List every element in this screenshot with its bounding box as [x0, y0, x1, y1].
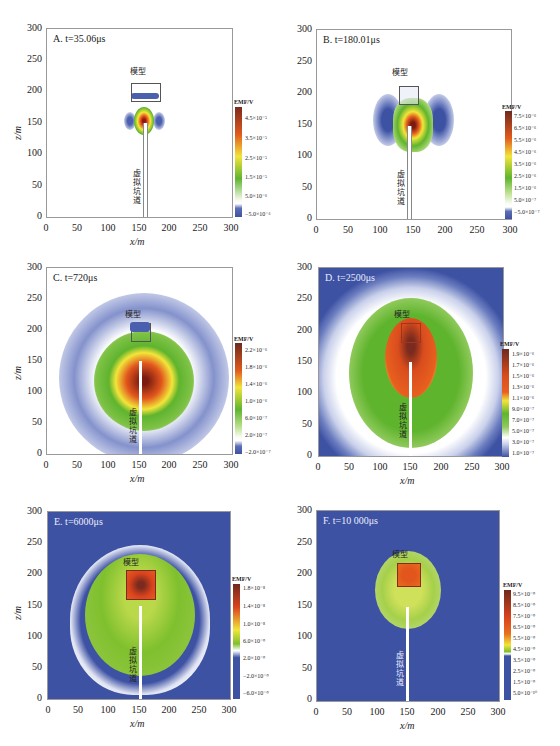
colorbar-tick: 1.0×10⁻⁶	[245, 397, 267, 404]
panel-a: 模型 虚拟坑道 A. t=35.06μs 300 250 200 150 100…	[0, 0, 280, 245]
y-tick: 150	[20, 354, 42, 365]
x-tick: 0	[34, 459, 58, 470]
model-box	[126, 570, 156, 600]
colorbar-tick: −2.0×10⁻⁷	[245, 448, 271, 455]
y-tick: 0	[290, 449, 312, 460]
x-axis-label: x/m	[130, 718, 144, 729]
x-tick: 50	[335, 706, 359, 717]
colorbar-tick: 3.0×10⁻⁷	[512, 438, 534, 445]
colorbar-tick: 5.0×10⁻⁷	[512, 427, 534, 434]
x-tick: 150	[401, 224, 425, 235]
model-box	[401, 323, 421, 343]
colorbar-tick: 1.4×10⁻⁸	[243, 602, 265, 609]
field-blob	[393, 98, 433, 152]
plot-area-e: 模型 虚拟坑道 E. t=6000μs	[47, 511, 231, 700]
x-tick: 150	[395, 706, 419, 717]
y-tick: 150	[20, 599, 42, 610]
x-tick: 0	[306, 461, 330, 472]
y-tick: 150	[290, 599, 312, 610]
plot-area-a: 模型 虚拟坑道 A. t=35.06μs	[46, 28, 233, 218]
x-tick: 300	[219, 459, 243, 470]
y-tick: 50	[20, 179, 42, 190]
tunnel	[409, 362, 412, 456]
colorbar-tick: 1.0×10⁻⁷	[512, 449, 534, 456]
tunnel	[406, 607, 409, 701]
y-tick: 250	[20, 53, 42, 64]
model-box	[397, 563, 421, 587]
x-tick: 200	[157, 222, 181, 233]
colorbar-tick: 2.0×10⁻⁷	[245, 431, 267, 438]
x-tick: 200	[157, 459, 181, 470]
x-axis-label: x/m	[400, 475, 414, 486]
colorbar-tick: −5.0×10⁻⁶	[245, 210, 271, 217]
colorbar	[505, 111, 512, 219]
model-label: 模型	[130, 65, 146, 76]
tunnel-label: 虚拟坑道	[393, 651, 404, 687]
colorbar-tick: 1.4×10⁻⁶	[245, 380, 267, 387]
x-tick: 300	[219, 222, 243, 233]
x-tick: 100	[368, 224, 392, 235]
y-tick: 200	[20, 567, 42, 578]
y-tick: 0	[20, 692, 42, 703]
x-axis-label: x/m	[400, 720, 414, 731]
colorbar-tick: −6.0×10⁻⁹	[243, 689, 269, 696]
y-tick: 100	[20, 147, 42, 158]
colorbar-tick: 2.5×10⁻⁶	[514, 172, 536, 179]
colorbar-tick: −2.0×10⁻⁹	[243, 672, 269, 679]
colorbar-tick: 4.5×10⁻⁵	[245, 114, 267, 121]
y-tick: 300	[290, 504, 312, 515]
colorbar-tick: 1.8×10⁻⁶	[245, 363, 267, 370]
colorbar-tick: 8.5×10⁻⁹	[513, 601, 535, 608]
colorbar-tick: 7.5×10⁻⁶	[514, 112, 536, 119]
y-tick: 300	[20, 22, 42, 33]
x-tick: 50	[337, 461, 361, 472]
x-tick: 300	[217, 704, 241, 715]
model-label: 模型	[123, 556, 139, 567]
colorbar-tick: 5.0×10⁻¹⁰	[513, 689, 537, 696]
x-tick: 0	[304, 224, 328, 235]
colorbar-tick: 6.5×10⁻⁶	[514, 124, 536, 131]
x-tick: 150	[127, 704, 151, 715]
colorbar-tick: 5.5×10⁻⁹	[513, 634, 535, 641]
colorbar	[233, 584, 240, 699]
colorbar	[504, 590, 511, 700]
colorbar-tick: 7.0×10⁻⁷	[512, 416, 534, 423]
x-tick: 100	[96, 459, 120, 470]
colorbar-tick: 9.5×10⁻⁹	[513, 590, 535, 597]
colorbar-title: EMF/V	[232, 576, 251, 582]
colorbar-tick: 9.0×10⁻⁷	[512, 405, 534, 412]
x-tick: 250	[465, 224, 489, 235]
y-tick: 200	[290, 86, 312, 97]
colorbar	[502, 349, 509, 457]
y-tick: 100	[290, 386, 312, 397]
panel-title: C. t=720μs	[53, 272, 97, 283]
model-label: 模型	[394, 308, 410, 319]
y-tick: 50	[290, 662, 312, 673]
panel-title: E. t=6000μs	[54, 516, 103, 527]
y-tick: 150	[290, 355, 312, 366]
model-label: 模型	[125, 308, 141, 319]
x-tick: 250	[187, 704, 211, 715]
y-tick: 200	[290, 567, 312, 578]
panel-c: 模型 虚拟坑道 C. t=720μs 300 250 200 150 100 5…	[0, 250, 280, 490]
x-tick: 300	[486, 706, 510, 717]
y-tick: 100	[290, 149, 312, 160]
field-blob	[153, 112, 165, 130]
tunnel-label: 虚拟坑道	[394, 170, 405, 206]
y-tick: 50	[20, 416, 42, 427]
colorbar	[235, 107, 242, 217]
y-tick: 200	[20, 84, 42, 95]
colorbar-title: EMF/V	[234, 336, 253, 342]
tunnel	[139, 361, 142, 454]
x-tick: 100	[368, 461, 392, 472]
y-tick: 250	[290, 292, 312, 303]
colorbar-tick: 1.0×10⁻⁸	[243, 620, 265, 627]
x-tick: 0	[34, 222, 58, 233]
x-tick: 250	[460, 461, 484, 472]
y-tick: 200	[20, 323, 42, 334]
x-tick: 0	[36, 704, 60, 715]
panel-b: 模型 虚拟坑道 B. t=180.01μs 300 250 200 150 10…	[280, 0, 560, 245]
x-axis-label: x/m	[130, 473, 144, 484]
x-tick: 250	[188, 459, 212, 470]
panel-e: 模型 虚拟坑道 E. t=6000μs 300 250 200 150 100 …	[0, 490, 280, 734]
